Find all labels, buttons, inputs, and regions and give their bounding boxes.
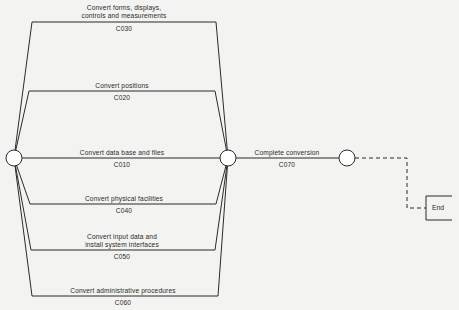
activity-label-c050: Convert input data and install system in…: [85, 233, 159, 249]
activity-label-c040: Convert physical facilities: [85, 195, 163, 203]
activity-code-c050: C050: [114, 253, 130, 261]
label-line: controls and measurements: [81, 12, 166, 20]
activity-label-c060: Convert administrative procedures: [70, 287, 175, 295]
activity-label-c020: Convert positions: [95, 82, 149, 90]
network-diagram: [0, 0, 459, 310]
activity-code-c010: C010: [114, 161, 130, 169]
end-label: End: [432, 204, 444, 211]
label-line: install system interfaces: [85, 241, 159, 249]
final-node: [339, 150, 355, 166]
start-node: [6, 150, 22, 166]
dummy-edge-to-end: [355, 158, 426, 208]
edge-c060: [14, 158, 228, 296]
activity-code-c040: C040: [116, 207, 132, 215]
activity-label-c030: Convert forms, displays, controls and me…: [81, 4, 166, 20]
merge-node: [220, 150, 236, 166]
activity-label-c070: Complete conversion: [255, 149, 320, 157]
edge-c030: [14, 22, 228, 158]
label-line: Convert input data and: [85, 233, 159, 241]
activity-code-c020: C020: [114, 94, 130, 102]
label-line: Convert forms, displays,: [81, 4, 166, 12]
activity-code-c030: C030: [116, 25, 132, 33]
activity-code-c070: C070: [279, 161, 295, 169]
activity-label-c010: Convert data base and files: [80, 149, 164, 157]
activity-code-c060: C060: [115, 299, 131, 307]
